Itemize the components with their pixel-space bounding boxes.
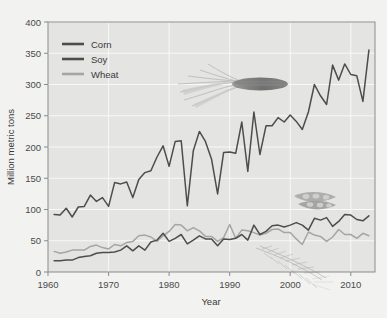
- y-tick-label-100: 100: [25, 204, 41, 215]
- chart-figure: 400 350 300 250 200 150 100 50 0 1960 19…: [0, 0, 387, 318]
- x-tick-label-1990: 1990: [219, 279, 240, 290]
- y-tick-label-300: 300: [25, 79, 41, 90]
- y-tick-label-250: 250: [25, 110, 41, 121]
- x-tick-label-2000: 2000: [280, 279, 301, 290]
- legend-label-soy: Soy: [91, 54, 108, 65]
- y-axis-title: Million metric tons: [5, 109, 16, 185]
- y-tick-label-50: 50: [30, 235, 41, 246]
- x-tick-label-1970: 1970: [98, 279, 119, 290]
- x-tick-label-1980: 1980: [159, 279, 180, 290]
- legend-label-corn: Corn: [91, 39, 112, 50]
- y-tick-label-350: 350: [25, 48, 41, 59]
- chart-svg: 400 350 300 250 200 150 100 50 0 1960 19…: [0, 0, 387, 318]
- x-axis-title: Year: [201, 296, 220, 307]
- x-tick-label-2010: 2010: [340, 279, 361, 290]
- y-tick-label-400: 400: [25, 17, 41, 28]
- x-tick-label-1960: 1960: [37, 279, 58, 290]
- y-tick-label-150: 150: [25, 173, 41, 184]
- y-tick-label-0: 0: [36, 267, 41, 278]
- y-tick-label-200: 200: [25, 142, 41, 153]
- legend-label-wheat: Wheat: [91, 69, 119, 80]
